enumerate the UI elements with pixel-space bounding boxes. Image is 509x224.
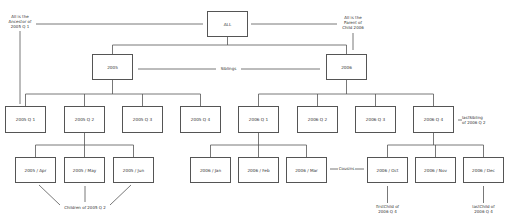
node-label: 2005 (107, 65, 118, 70)
node-label: 2006 (341, 65, 352, 70)
node-label: 2006 Q 3 (366, 117, 385, 122)
annotation-text: Cousins (339, 166, 355, 171)
annotation-line: of 2006 Q 2 (462, 120, 502, 125)
annotation-last-child: lastChild of 2006 Q 4 (466, 204, 501, 214)
node-label: 2006 Q 4 (424, 117, 443, 122)
node-2005-apr[interactable]: 2005 / Apr (15, 157, 56, 183)
node-2005-may[interactable]: 2005 / May (64, 157, 105, 183)
node-label: 2005 Q 4 (191, 117, 210, 122)
annotation-text: Siblings (221, 66, 237, 71)
node-2006-q4[interactable]: 2006 Q 4 (413, 106, 454, 133)
node-2005-q3[interactable]: 2005 Q 3 (122, 106, 163, 133)
node-label: 2006 / Jan (200, 168, 221, 173)
node-label: 2006 / Oct (377, 168, 399, 173)
node-2006-mar[interactable]: 2006 / Mar (286, 157, 327, 183)
node-all[interactable]: ALL (207, 11, 248, 37)
node-2006-nov[interactable]: 2006 / Nov (415, 157, 456, 183)
node-2006-jan[interactable]: 2006 / Jan (190, 157, 231, 183)
node-label: ALL (224, 22, 232, 27)
annotation-cousins: Cousins (337, 166, 356, 171)
node-label: 2005 / May (73, 168, 96, 173)
node-2006-feb[interactable]: 2006 / Feb (238, 157, 279, 183)
node-2006-q2[interactable]: 2006 Q 2 (297, 106, 338, 133)
annotation-first-child: firstChild of 2006 Q 4 (370, 204, 405, 214)
annotation-text: Children of 2005 Q 2 (64, 205, 105, 210)
node-label: 2006 / Dec (472, 168, 495, 173)
annotation-last-sibling: lastSibling of 2006 Q 2 (462, 115, 502, 125)
node-2005-q4[interactable]: 2005 Q 4 (180, 106, 221, 133)
annotation-line: 2006 Q 4 (466, 209, 501, 214)
node-label: 2005 / Apr (25, 168, 47, 173)
annotation-parent: All is the Parent of Child 2006 (338, 15, 368, 30)
node-2005[interactable]: 2005 (92, 54, 133, 80)
annotation-line: 2005 Q 1 (5, 24, 35, 29)
annotation-ancestor: All is the Ancestor of 2005 Q 1 (5, 14, 35, 29)
node-2006-q1[interactable]: 2006 Q 1 (238, 106, 279, 133)
node-2005-q2[interactable]: 2005 Q 2 (64, 106, 105, 133)
node-label: 2006 / Feb (247, 168, 269, 173)
annotation-line: Child 2006 (338, 25, 368, 30)
node-2005-jun[interactable]: 2005 / Jun (113, 157, 154, 183)
annotation-children: Children of 2005 Q 2 (55, 205, 115, 210)
node-2006-oct[interactable]: 2006 / Oct (367, 157, 408, 183)
node-label: 2006 / Mar (295, 168, 318, 173)
node-label: 2006 Q 2 (308, 117, 327, 122)
node-2006-dec[interactable]: 2006 / Dec (463, 157, 504, 183)
node-label: 2005 Q 1 (16, 117, 35, 122)
node-2005-q1[interactable]: 2005 Q 1 (5, 106, 46, 133)
node-2006[interactable]: 2006 (326, 54, 367, 80)
annotation-siblings: Siblings (216, 66, 241, 71)
node-label: 2006 Q 1 (249, 117, 268, 122)
node-label: 2006 / Nov (424, 168, 447, 173)
node-label: 2005 Q 2 (75, 117, 94, 122)
annotation-line: 2006 Q 4 (370, 209, 405, 214)
node-label: 2005 Q 3 (133, 117, 152, 122)
node-2006-q3[interactable]: 2006 Q 3 (355, 106, 396, 133)
node-label: 2005 / Jun (123, 168, 144, 173)
